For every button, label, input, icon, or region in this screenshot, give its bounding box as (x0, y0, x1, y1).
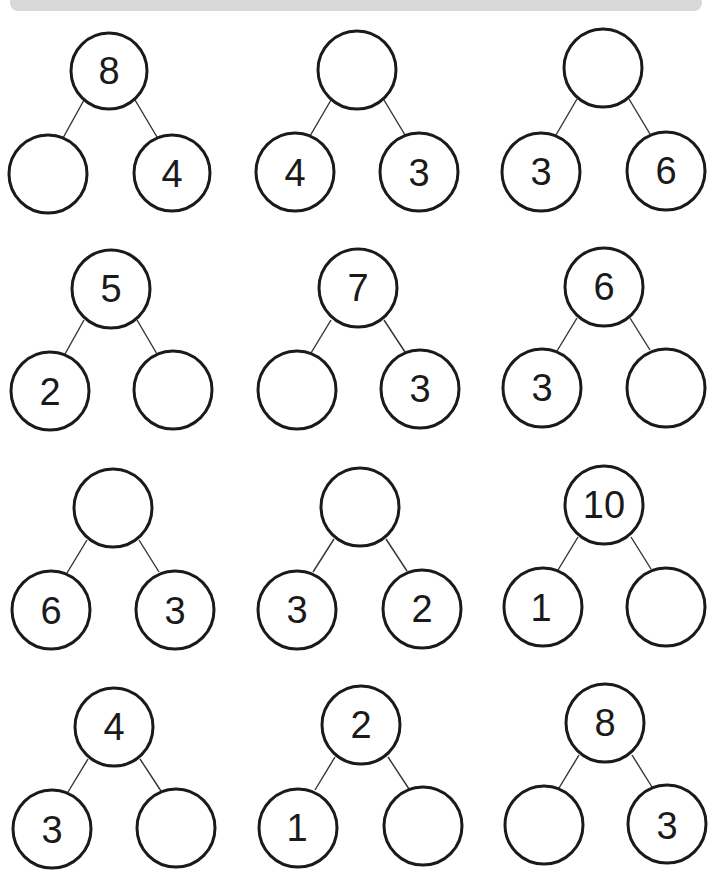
bond-connector-right (629, 99, 650, 134)
number-bond-5: 7 3 (258, 249, 459, 429)
part-left-value: 1 (530, 587, 551, 629)
whole-value: 5 (100, 268, 121, 310)
bond-connector-right (137, 320, 157, 354)
number-bond-worksheet: 8 4 4 3 3 6 5 2 7 (0, 0, 726, 875)
whole-value: 10 (583, 484, 625, 526)
number-bond-9: 10 1 (504, 466, 705, 646)
part-right-value: 3 (408, 152, 429, 194)
bond-connector-left (311, 320, 331, 353)
bond-connector-right (135, 100, 157, 137)
part-right-circle[interactable] (627, 568, 705, 646)
part-left-value: 1 (286, 807, 307, 849)
whole-value: 4 (103, 706, 124, 748)
bond-connector-left (557, 318, 577, 351)
part-left-circle[interactable] (258, 351, 336, 429)
bond-connector-right (384, 100, 405, 135)
bond-connector-right (386, 539, 407, 571)
part-right-value: 3 (164, 590, 185, 632)
bond-connector-right (632, 755, 652, 787)
part-left-circle[interactable] (505, 786, 583, 864)
part-right-value: 3 (656, 805, 677, 847)
bond-connector-left (558, 537, 578, 570)
whole-circle[interactable] (321, 468, 399, 546)
part-left-value: 2 (39, 371, 60, 413)
whole-value: 8 (594, 702, 615, 744)
whole-circle[interactable] (564, 29, 642, 107)
number-bond-8: 3 2 (258, 468, 461, 649)
part-left-value: 6 (40, 590, 61, 632)
bond-connector-left (559, 755, 579, 788)
whole-circle[interactable] (74, 469, 152, 547)
whole-circle[interactable] (318, 31, 396, 109)
number-bond-1: 8 4 (9, 33, 210, 213)
number-bond-12: 8 3 (505, 684, 706, 864)
number-bond-7: 6 3 (12, 469, 214, 649)
bond-connector-right (388, 757, 409, 789)
whole-value: 6 (593, 266, 614, 308)
number-bond-6: 6 3 (503, 248, 705, 427)
number-bond-2: 4 3 (256, 31, 458, 211)
part-right-value: 2 (411, 588, 432, 630)
part-right-circle[interactable] (134, 351, 212, 429)
number-bond-3: 3 6 (502, 29, 705, 211)
part-left-value: 3 (531, 367, 552, 409)
bond-connector-left (310, 100, 331, 136)
bond-connector-right (384, 320, 405, 352)
part-right-value: 6 (655, 150, 676, 192)
whole-value: 2 (350, 704, 371, 746)
bond-connector-left (315, 757, 335, 790)
bond-connector-left (65, 320, 84, 354)
part-left-value: 3 (530, 151, 551, 193)
bond-connector-left (556, 99, 577, 135)
bond-connector-right (140, 759, 161, 791)
bond-connector-left (63, 100, 84, 138)
part-left-circle[interactable] (9, 135, 87, 213)
whole-value: 8 (98, 50, 119, 92)
part-right-circle[interactable] (384, 787, 462, 865)
bond-connector-left (68, 759, 88, 792)
part-right-circle[interactable] (627, 349, 705, 427)
bond-connector-right (630, 318, 650, 350)
number-bond-11: 2 1 (259, 686, 462, 867)
bond-connector-right (139, 540, 159, 572)
number-bond-10: 4 3 (13, 688, 215, 868)
part-right-circle[interactable] (137, 789, 215, 867)
part-left-value: 4 (284, 152, 305, 194)
part-left-value: 3 (286, 589, 307, 631)
part-right-value: 3 (409, 368, 430, 410)
number-bond-4: 5 2 (11, 250, 212, 430)
part-left-value: 3 (41, 809, 62, 851)
bond-connector-left (313, 539, 334, 572)
bond-connector-right (631, 537, 651, 569)
bond-connector-left (67, 540, 87, 573)
part-right-value: 4 (161, 153, 182, 195)
whole-value: 7 (347, 267, 368, 309)
